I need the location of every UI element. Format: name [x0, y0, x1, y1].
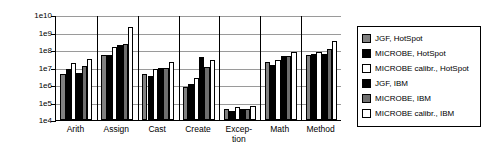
chart-legend: JGF, HotSpotMICROBE, HotSpotMICROBE cali… — [357, 26, 481, 127]
legend-item-label: MICROBE, HotSpot — [375, 49, 446, 58]
bar — [291, 52, 296, 120]
legend-swatch-icon — [362, 34, 371, 43]
y-axis-tick-label: 1e4 — [18, 117, 52, 125]
y-axis-tick-label: 1e10 — [18, 12, 52, 20]
legend-item-label: MICROBE calibr., IBM — [375, 109, 454, 118]
plot-area — [55, 16, 341, 121]
bar-group — [179, 16, 220, 120]
group-separator — [97, 16, 98, 120]
legend-item-label: JGF, HotSpot — [375, 34, 423, 43]
y-axis-tick-labels: 1e101e91e81e71e61e51e4 — [10, 16, 52, 121]
bar-group — [138, 16, 179, 120]
bar-group — [260, 16, 301, 120]
y-axis-tick-label: 1e9 — [18, 30, 52, 38]
legend-item-label: MICROBE calibr., HotSpot — [375, 64, 469, 73]
bar — [332, 41, 337, 120]
bar-group — [97, 16, 138, 120]
chart-figure: 1e101e91e81e71e61e51e4 ArithAssignCastCr… — [0, 0, 486, 158]
legend-swatch-icon — [362, 79, 371, 88]
bar — [128, 27, 133, 120]
group-separator — [301, 16, 302, 120]
group-separator — [260, 16, 261, 120]
legend-item: MICROBE, IBM — [362, 91, 476, 106]
legend-item-label: JGF, IBM — [375, 79, 408, 88]
y-axis-tick-label: 1e5 — [18, 100, 52, 108]
x-axis-tick-label: Cast — [137, 125, 178, 135]
x-axis-tick-label: Create — [178, 125, 219, 135]
legend-item: JGF, IBM — [362, 76, 476, 91]
x-axis-tick-label: Arith — [55, 125, 96, 135]
bar — [169, 62, 174, 120]
legend-swatch-icon — [362, 94, 371, 103]
group-separator — [179, 16, 180, 120]
group-separator — [219, 16, 220, 120]
legend-swatch-icon — [362, 109, 371, 118]
x-axis-tick-label: Assign — [96, 125, 137, 135]
bar — [87, 59, 92, 120]
bar-group — [56, 16, 97, 120]
x-axis-tick-label: Method — [300, 125, 341, 135]
legend-item: MICROBE calibr., IBM — [362, 106, 476, 121]
x-axis-tick-label: Math — [259, 125, 300, 135]
x-axis-tick-label: Excep- tion — [218, 125, 259, 144]
bar — [250, 106, 255, 120]
bar-group — [301, 16, 342, 120]
legend-item: MICROBE, HotSpot — [362, 46, 476, 61]
y-axis-tick-label: 1e8 — [18, 47, 52, 55]
legend-item-label: MICROBE, IBM — [375, 94, 431, 103]
bar-group — [219, 16, 260, 120]
group-separator — [138, 16, 139, 120]
bar — [210, 60, 215, 120]
legend-swatch-icon — [362, 64, 371, 73]
legend-swatch-icon — [362, 49, 371, 58]
legend-item: MICROBE calibr., HotSpot — [362, 61, 476, 76]
legend-item: JGF, HotSpot — [362, 31, 476, 46]
y-axis-tick — [51, 121, 56, 122]
y-axis-tick-label: 1e6 — [18, 82, 52, 90]
y-axis-tick-label: 1e7 — [18, 65, 52, 73]
